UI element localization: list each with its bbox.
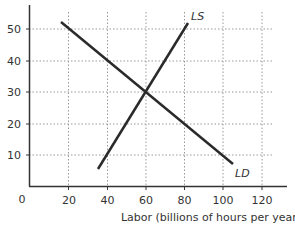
x-tick-label: 120 (252, 194, 273, 207)
x-tick-label: 20 (62, 194, 76, 207)
vertical-gridlines (69, 12, 263, 186)
labor-supply-curve (98, 23, 188, 169)
y-tick-label: 20 (7, 118, 21, 131)
tick-marks (26, 29, 262, 190)
origin-label: 0 (19, 193, 26, 206)
ld-curve-label: LD (235, 167, 250, 180)
labor-market-chart: 50 40 30 20 10 0 20 40 60 80 100 120 Lab… (0, 0, 295, 229)
x-tick-label: 100 (213, 194, 234, 207)
y-tick-label: 50 (7, 23, 21, 36)
y-tick-label: 10 (7, 149, 21, 162)
x-tick-label: 40 (101, 194, 115, 207)
y-tick-label: 40 (7, 55, 21, 68)
ls-curve-label: LS (191, 10, 204, 23)
x-tick-label: 60 (139, 194, 153, 207)
x-tick-label: 80 (178, 194, 192, 207)
x-axis-label: Labor (billions of hours per year) (121, 211, 295, 224)
labor-demand-curve (61, 22, 233, 164)
horizontal-gridlines (29, 29, 274, 155)
y-tick-label: 30 (7, 86, 21, 99)
